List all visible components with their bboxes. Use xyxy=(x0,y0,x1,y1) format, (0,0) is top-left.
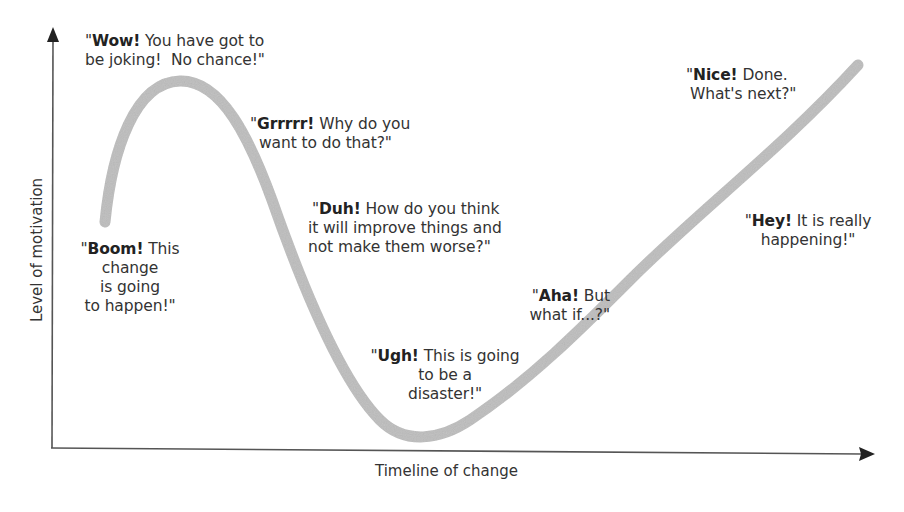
stage-line: happening!" xyxy=(738,231,878,250)
stage-keyword: Boom! xyxy=(88,240,144,258)
open-quote: " xyxy=(745,212,752,230)
stage-line: change xyxy=(74,259,186,278)
open-quote: " xyxy=(532,287,539,305)
stage-line: Done. xyxy=(738,66,788,84)
stage-keyword: Grrrrr! xyxy=(257,115,314,133)
stage-line: How do you think xyxy=(361,200,500,218)
stage-keyword: Hey! xyxy=(752,212,792,230)
stage-line: what if...?" xyxy=(508,306,610,325)
stage-line: But xyxy=(579,287,610,305)
stage-line: to be a xyxy=(360,366,530,385)
stage-keyword: Duh! xyxy=(319,200,361,218)
stage-label-wow: "Wow! You have got to be joking! No chan… xyxy=(85,32,265,70)
y-axis-arrow-icon xyxy=(47,27,59,42)
stage-keyword: Wow! xyxy=(92,32,140,50)
stage-line: is going xyxy=(74,278,186,297)
x-axis-label: Timeline of change xyxy=(375,462,518,480)
stage-keyword: Ugh! xyxy=(377,347,418,365)
stage-label-nice: "Nice! Done. What's next?" xyxy=(686,66,796,104)
stage-line: You have got to xyxy=(140,32,264,50)
stage-line: not make them worse?" xyxy=(308,238,502,257)
stage-line: This is going xyxy=(419,347,520,365)
stage-keyword: Nice! xyxy=(693,66,738,84)
y-axis-line xyxy=(52,38,53,448)
stage-label-hey: "Hey! It is really happening!" xyxy=(738,212,878,250)
stage-line: What's next?" xyxy=(686,85,796,104)
stage-keyword: Aha! xyxy=(539,287,579,305)
stage-label-duh: "Duh! How do you think it will improve t… xyxy=(308,200,502,257)
open-quote: " xyxy=(85,32,92,50)
stage-line: Why do you xyxy=(314,115,410,133)
stage-line: it will improve things and xyxy=(308,219,502,238)
x-axis-line xyxy=(51,448,862,454)
y-axis-label: Level of motivation xyxy=(28,178,46,322)
stage-line: want to do that?" xyxy=(250,134,410,153)
stage-line: This xyxy=(143,240,179,258)
stage-line: be joking! No chance!" xyxy=(85,51,265,70)
x-axis-arrow-icon xyxy=(859,447,875,461)
stage-line: disaster!" xyxy=(360,385,530,404)
open-quote: " xyxy=(312,200,319,218)
stage-label-aha: "Aha! But what if...?" xyxy=(508,287,610,325)
stage-line: to happen!" xyxy=(74,297,186,316)
open-quote: " xyxy=(81,240,88,258)
stage-line: It is really xyxy=(792,212,871,230)
stage-label-grrrr: "Grrrrr! Why do you want to do that?" xyxy=(250,115,410,153)
open-quote: " xyxy=(250,115,257,133)
stage-label-ugh: "Ugh! This is going to be a disaster!" xyxy=(360,347,530,404)
open-quote: " xyxy=(686,66,693,84)
stage-label-boom: "Boom! This change is going to happen!" xyxy=(74,240,186,316)
